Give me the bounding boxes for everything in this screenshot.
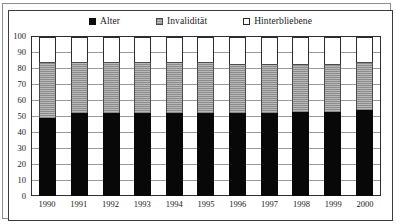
bar-segment-hinterbliebene (166, 37, 183, 62)
bar-segment-invaliditaet (229, 64, 246, 113)
bar-segment-alter (166, 113, 183, 196)
x-axis-tick-label: 1993 (134, 200, 151, 209)
y-axis-tick-label: 90 (18, 48, 27, 57)
bar-column (134, 37, 151, 196)
bar-column (103, 37, 120, 196)
legend-item-invaliditaet: Invalidität (156, 16, 207, 26)
legend-swatch-alter-icon (89, 18, 96, 25)
bar-segment-alter (197, 113, 214, 196)
bar-segment-hinterbliebene (71, 37, 88, 62)
bar-column (71, 37, 88, 196)
legend-label-alter: Alter (100, 16, 120, 26)
legend-item-alter: Alter (89, 16, 120, 26)
x-axis-tick-label: 1999 (325, 200, 342, 209)
bar-column (39, 37, 56, 196)
bar-segment-hinterbliebene (197, 37, 214, 62)
bar-series-group (32, 37, 380, 196)
x-axis-tick-label: 1998 (293, 200, 310, 209)
bar-segment-alter (71, 113, 88, 196)
chart-legend: Alter Invalidität Hinterbliebene (9, 13, 392, 29)
x-axis-tick-label: 1992 (102, 200, 119, 209)
x-axis-tick-label: 1996 (229, 200, 246, 209)
bar-column (356, 37, 373, 196)
bar-segment-invaliditaet (71, 62, 88, 113)
bar-column (261, 37, 278, 196)
x-axis-tick-label: 1990 (38, 200, 55, 209)
legend-label-invaliditaet: Invalidität (167, 16, 207, 26)
x-axis: 1990199119921993199419951996199719981999… (31, 200, 381, 216)
legend-swatch-hinterbliebene-icon (243, 18, 250, 25)
bar-segment-hinterbliebene (356, 37, 373, 62)
x-axis-tick-label: 1994 (166, 200, 183, 209)
x-axis-tick-label: 1991 (70, 200, 87, 209)
y-axis-tick-label: 100 (13, 32, 26, 41)
bar-segment-alter (292, 112, 309, 196)
bar-column (166, 37, 183, 196)
bar-segment-alter (261, 113, 278, 196)
bar-column (292, 37, 309, 196)
bar-segment-hinterbliebene (39, 37, 56, 62)
y-axis-tick-label: 80 (18, 64, 27, 73)
bar-segment-alter (39, 118, 56, 196)
bar-segment-alter (229, 113, 246, 196)
outer-frame: Alter Invalidität Hinterbliebene 1009080… (2, 3, 391, 219)
bar-segment-invaliditaet (292, 64, 309, 112)
bar-segment-hinterbliebene (134, 37, 151, 62)
legend-swatch-invaliditaet-icon (156, 18, 163, 25)
bar-column (229, 37, 246, 196)
bar-segment-alter (103, 113, 120, 196)
y-axis-tick-label: 20 (18, 160, 27, 169)
y-axis-tick-label: 40 (18, 128, 27, 137)
bar-column (197, 37, 214, 196)
x-axis-tick-label: 2000 (357, 200, 374, 209)
legend-item-hinterbliebene: Hinterbliebene (243, 16, 312, 26)
y-axis-tick-label: 50 (18, 112, 27, 121)
bar-segment-hinterbliebene (229, 37, 246, 64)
bar-segment-invaliditaet (103, 62, 120, 113)
bar-segment-alter (324, 112, 341, 196)
bar-segment-invaliditaet (134, 62, 151, 113)
y-axis-tick-label: 60 (18, 96, 27, 105)
y-axis-tick-label: 10 (18, 176, 27, 185)
y-axis-tick-label: 0 (22, 192, 26, 201)
bar-segment-alter (356, 110, 373, 196)
y-axis: 1009080706050403020100 (3, 30, 29, 202)
bar-segment-invaliditaet (197, 62, 214, 113)
bar-column (324, 37, 341, 196)
bar-segment-hinterbliebene (103, 37, 120, 62)
bar-segment-hinterbliebene (261, 37, 278, 64)
bar-segment-invaliditaet (166, 62, 183, 113)
x-axis-tick-label: 1997 (261, 200, 278, 209)
bar-segment-invaliditaet (39, 62, 56, 118)
legend-label-hinterbliebene: Hinterbliebene (254, 16, 312, 26)
bar-segment-invaliditaet (356, 62, 373, 110)
bar-segment-alter (134, 113, 151, 196)
y-axis-tick-label: 70 (18, 80, 27, 89)
bar-segment-invaliditaet (324, 64, 341, 112)
y-axis-tick-label: 30 (18, 144, 27, 153)
x-axis-tick-label: 1995 (197, 200, 214, 209)
bar-segment-invaliditaet (261, 64, 278, 113)
bar-segment-hinterbliebene (324, 37, 341, 64)
bar-segment-hinterbliebene (292, 37, 309, 64)
